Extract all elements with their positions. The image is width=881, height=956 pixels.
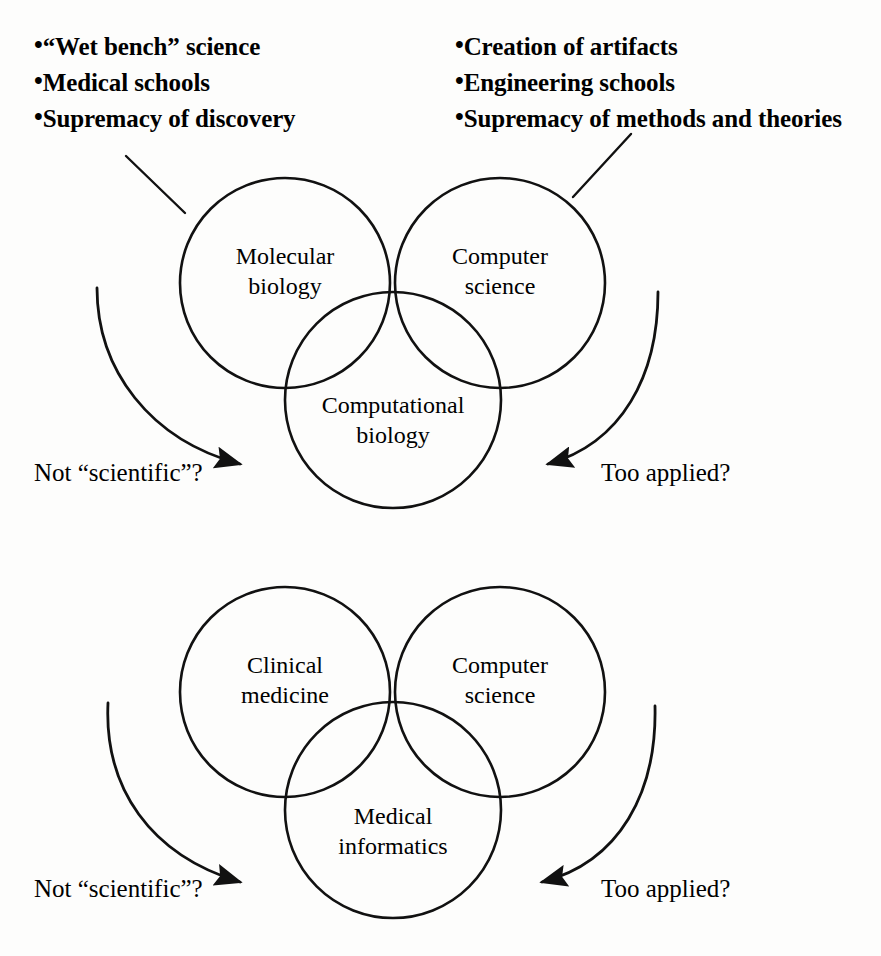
bullet-item: •Supremacy of methods and theories [455,100,842,136]
leader-line-left [126,156,185,213]
label-medical-informatics: Medical informatics [293,801,493,861]
bullet-dot-icon: • [34,67,43,94]
bullet-item: •Creation of artifacts [455,28,842,64]
leader-line-right [573,134,631,197]
arrow-label-too-applied: Too applied? [601,458,730,488]
bullet-text: Supremacy of discovery [43,105,296,132]
arrow-too-applied [548,292,658,464]
diagram-medical-informatics [108,587,655,918]
diagram-computational-biology [97,134,658,508]
label-line-1: Molecular [185,241,385,271]
arrow-too-applied [542,706,655,882]
label-line-1: Computer [400,241,600,271]
arrow-label-not-scientific: Not “scientific”? [34,458,203,488]
label-computational-biology: Computational biology [293,390,493,450]
arrow-not-scientific [108,703,240,882]
bullet-text: Engineering schools [464,69,675,96]
label-computer-science: Computer science [400,650,600,710]
arrow-not-scientific [97,288,240,464]
bullet-item: •Engineering schools [455,64,842,100]
bullet-text: Creation of artifacts [464,33,678,60]
arrow-label-not-scientific: Not “scientific”? [34,874,203,904]
bullet-item: •“Wet bench” science [34,28,296,64]
label-line-1: Computational [293,390,493,420]
arrow-label-too-applied: Too applied? [601,874,730,904]
bullet-text: Supremacy of methods and theories [464,105,842,132]
label-line-2: medicine [185,680,385,710]
label-molecular-biology: Molecular biology [185,241,385,301]
figure-canvas: •“Wet bench” science •Medical schools •S… [0,0,881,956]
bullet-dot-icon: • [455,67,464,94]
label-line-2: biology [293,420,493,450]
bullet-text: “Wet bench” science [43,33,261,60]
bullet-dot-icon: • [34,31,43,58]
bullet-dot-icon: • [455,31,464,58]
label-computer-science: Computer science [400,241,600,301]
bullet-list-right: •Creation of artifacts •Engineering scho… [455,28,842,136]
label-line-2: science [400,271,600,301]
label-line-1: Clinical [185,650,385,680]
bullet-item: •Supremacy of discovery [34,100,296,136]
label-line-1: Computer [400,650,600,680]
label-line-2: biology [185,271,385,301]
bullet-dot-icon: • [455,103,464,130]
label-line-2: informatics [293,831,493,861]
bullet-item: •Medical schools [34,64,296,100]
bullet-dot-icon: • [34,103,43,130]
label-clinical-medicine: Clinical medicine [185,650,385,710]
bullet-list-left: •“Wet bench” science •Medical schools •S… [34,28,296,136]
bullet-text: Medical schools [43,69,210,96]
label-line-1: Medical [293,801,493,831]
label-line-2: science [400,680,600,710]
